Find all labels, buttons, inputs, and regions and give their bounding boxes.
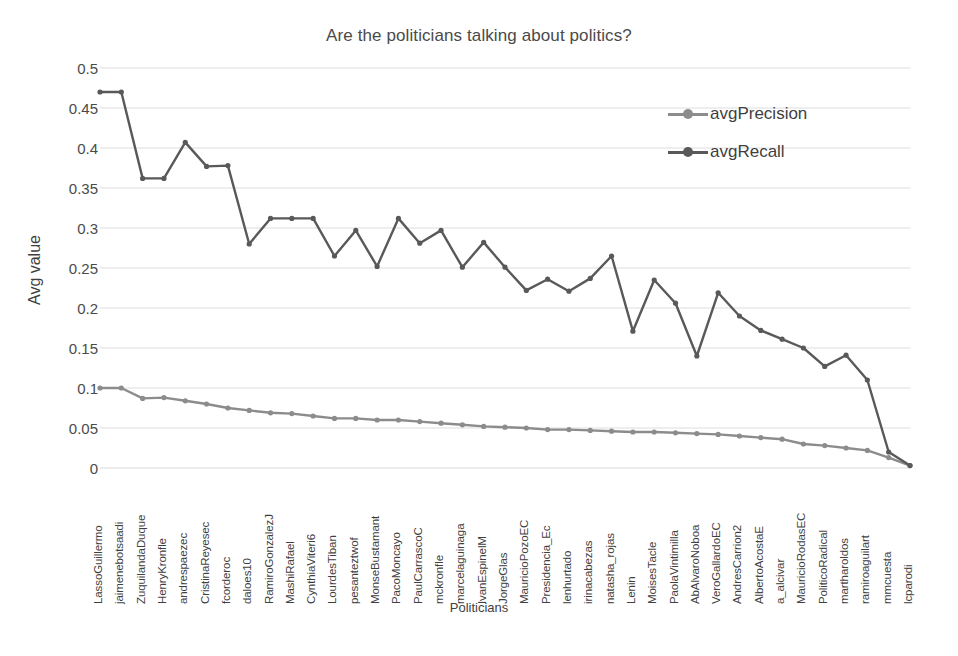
x-tick-label: AndresCarrion2 bbox=[731, 525, 743, 604]
x-tick-label: lcparodi bbox=[902, 565, 914, 604]
x-tick-label: IvanEspinelM bbox=[476, 536, 488, 604]
x-tick-label: lenhurtado bbox=[561, 551, 573, 604]
x-tick-label: MoisesTacle bbox=[646, 542, 658, 604]
x-tick-label: LourdesTiban bbox=[326, 535, 338, 604]
x-tick-label: MonseBustamant bbox=[369, 516, 381, 604]
y-tick-label: 0.3 bbox=[38, 220, 98, 237]
legend-label-recall: avgRecall bbox=[710, 142, 785, 162]
x-tick-label: martharoldos bbox=[838, 538, 850, 604]
x-axis-title: Politicians bbox=[0, 600, 958, 615]
legend-item-precision[interactable]: avgPrecision bbox=[668, 95, 898, 133]
x-tick-label: HenryKronfle bbox=[156, 538, 168, 604]
x-tick-label: mckronfle bbox=[433, 555, 445, 604]
x-tick-label: JorgeGlas bbox=[497, 552, 509, 604]
x-axis-tick-labels: LassoGuillermojaimenebotsaadiZuquilandaD… bbox=[0, 474, 958, 604]
x-tick-label: MauricioRodasEC bbox=[795, 513, 807, 604]
x-tick-label: fcorderoc bbox=[220, 557, 232, 604]
x-tick-label: AbAlvaroNoboa bbox=[689, 525, 701, 604]
x-tick-label: CristinaReyesec bbox=[199, 522, 211, 604]
y-tick-label: 0.15 bbox=[38, 340, 98, 357]
x-tick-label: pesanteztwof bbox=[348, 537, 360, 604]
x-tick-label: Presidencia_Ec bbox=[540, 525, 552, 604]
y-tick-label: 0.4 bbox=[38, 140, 98, 157]
chart-container: Are the politicians talking about politi… bbox=[0, 0, 958, 656]
x-tick-label: jaimenebotsaadi bbox=[113, 522, 125, 604]
x-tick-label: ZuquilandaDuque bbox=[135, 515, 147, 604]
x-tick-label: daloes10 bbox=[241, 558, 253, 604]
x-tick-label: MashiRafael bbox=[284, 541, 296, 604]
x-tick-label: natasha_rojas bbox=[604, 533, 616, 604]
x-tick-label: irinacabezas bbox=[582, 541, 594, 604]
legend-label-precision: avgPrecision bbox=[710, 104, 807, 124]
y-tick-label: 0.35 bbox=[38, 180, 98, 197]
legend-marker-recall bbox=[668, 145, 708, 159]
x-tick-label: ramiroaguilart bbox=[859, 535, 871, 604]
x-tick-label: VeroGallardoEC bbox=[710, 522, 722, 604]
legend-marker-precision bbox=[668, 107, 708, 121]
x-tick-label: MauricioPozoEC bbox=[518, 520, 530, 604]
y-tick-label: 0.45 bbox=[38, 100, 98, 117]
x-tick-label: LassoGuillermo bbox=[92, 526, 104, 605]
x-tick-label: AlbertoAcostaE bbox=[753, 526, 765, 604]
x-tick-label: CynthiaViteri6 bbox=[305, 534, 317, 604]
x-tick-label: marcelaguinaga bbox=[454, 524, 466, 604]
x-tick-label: mmcuesta bbox=[881, 552, 893, 604]
y-tick-label: 0.25 bbox=[38, 260, 98, 277]
x-tick-label: a_alcivar bbox=[774, 559, 786, 604]
x-tick-label: PaulCarrascoC bbox=[412, 527, 424, 604]
y-tick-label: 0.2 bbox=[38, 300, 98, 317]
x-tick-label: PoliticoRadical bbox=[817, 530, 829, 604]
chart-legend: avgPrecision avgRecall bbox=[668, 95, 898, 171]
chart-title: Are the politicians talking about politi… bbox=[0, 26, 958, 46]
x-tick-label: PacoMoncayo bbox=[390, 532, 402, 604]
y-tick-label: 0.05 bbox=[38, 420, 98, 437]
x-tick-label: RamiroGonzalezJ bbox=[263, 514, 275, 604]
x-tick-label: PaolaVintimilla bbox=[668, 530, 680, 604]
y-tick-label: 0.5 bbox=[38, 60, 98, 77]
y-tick-label: 0.1 bbox=[38, 380, 98, 397]
x-tick-label: andrespaezec bbox=[177, 533, 189, 604]
legend-item-recall[interactable]: avgRecall bbox=[668, 133, 898, 171]
